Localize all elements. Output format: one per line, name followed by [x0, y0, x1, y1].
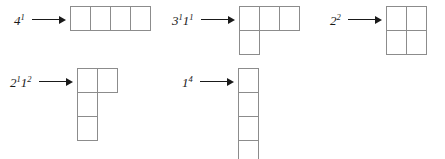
arrow-head: [227, 78, 234, 86]
young-diagram-row: [239, 30, 299, 54]
partition-label-exponent: 1: [21, 12, 25, 22]
young-diagram: [77, 68, 117, 140]
partition-entry: 14: [182, 68, 258, 159]
young-diagram-cell: [238, 68, 259, 93]
young-diagram-row: [238, 68, 258, 92]
partition-entry: 3111: [172, 6, 299, 54]
young-diagram-cell: [130, 6, 151, 31]
partition-entry: 41: [14, 6, 150, 31]
arrow-shaft: [200, 81, 228, 82]
young-diagram-figure: 41311122211214: [0, 0, 445, 159]
young-diagram-cell: [70, 6, 91, 31]
maps-to-arrow-icon: [200, 68, 234, 93]
young-diagram-cell: [77, 92, 98, 117]
young-diagram-cell: [386, 6, 407, 31]
maps-to-arrow-icon: [32, 6, 66, 31]
maps-to-arrow-icon: [348, 6, 382, 31]
arrow-head: [228, 16, 235, 24]
young-diagram-cell: [238, 140, 259, 159]
young-diagram-row: [238, 116, 258, 140]
young-diagram-cell: [77, 116, 98, 141]
young-diagram-row: [70, 6, 150, 30]
young-diagram-row: [238, 92, 258, 116]
young-diagram-row: [77, 116, 117, 140]
partition-label-exponent: 2: [337, 12, 341, 22]
partition-entry: 2112: [10, 68, 117, 140]
partition-label: 3111: [172, 6, 194, 27]
arrow-shaft: [39, 81, 67, 82]
young-diagram-cell: [279, 6, 300, 31]
young-diagram-row: [77, 68, 117, 92]
partition-label: 41: [14, 6, 25, 27]
maps-to-arrow-icon: [39, 68, 73, 93]
maps-to-arrow-icon: [201, 6, 235, 31]
young-diagram: [70, 6, 150, 30]
young-diagram-cell: [77, 68, 98, 93]
young-diagram-cell: [238, 116, 259, 141]
arrow-shaft: [201, 19, 229, 20]
partition-label: 14: [182, 68, 193, 89]
arrow-head: [59, 16, 66, 24]
partition-label-exponent-2: 2: [27, 74, 31, 84]
partition-entry: 22: [330, 6, 426, 54]
young-diagram-row: [386, 30, 426, 54]
young-diagram-row: [386, 6, 426, 30]
young-diagram-cell: [90, 6, 111, 31]
young-diagram-row: [77, 92, 117, 116]
young-diagram-cell: [238, 92, 259, 117]
partition-label: 2112: [10, 68, 32, 89]
young-diagram: [386, 6, 426, 54]
partition-label: 22: [330, 6, 341, 27]
arrow-head: [66, 78, 73, 86]
young-diagram-row: [239, 6, 299, 30]
young-diagram: [239, 6, 299, 54]
young-diagram: [238, 68, 258, 159]
partition-label-exponent: 4: [189, 74, 193, 84]
young-diagram-cell: [406, 30, 427, 55]
young-diagram-cell: [386, 30, 407, 55]
young-diagram-cell: [259, 6, 280, 31]
young-diagram-cell: [406, 6, 427, 31]
young-diagram-cell: [110, 6, 131, 31]
arrow-head: [375, 16, 382, 24]
young-diagram-cell: [97, 68, 118, 93]
arrow-shaft: [32, 19, 60, 20]
young-diagram-row: [238, 140, 258, 159]
young-diagram-cell: [239, 30, 260, 55]
arrow-shaft: [348, 19, 376, 20]
young-diagram-cell: [239, 6, 260, 31]
partition-label-exponent-2: 1: [189, 12, 193, 22]
